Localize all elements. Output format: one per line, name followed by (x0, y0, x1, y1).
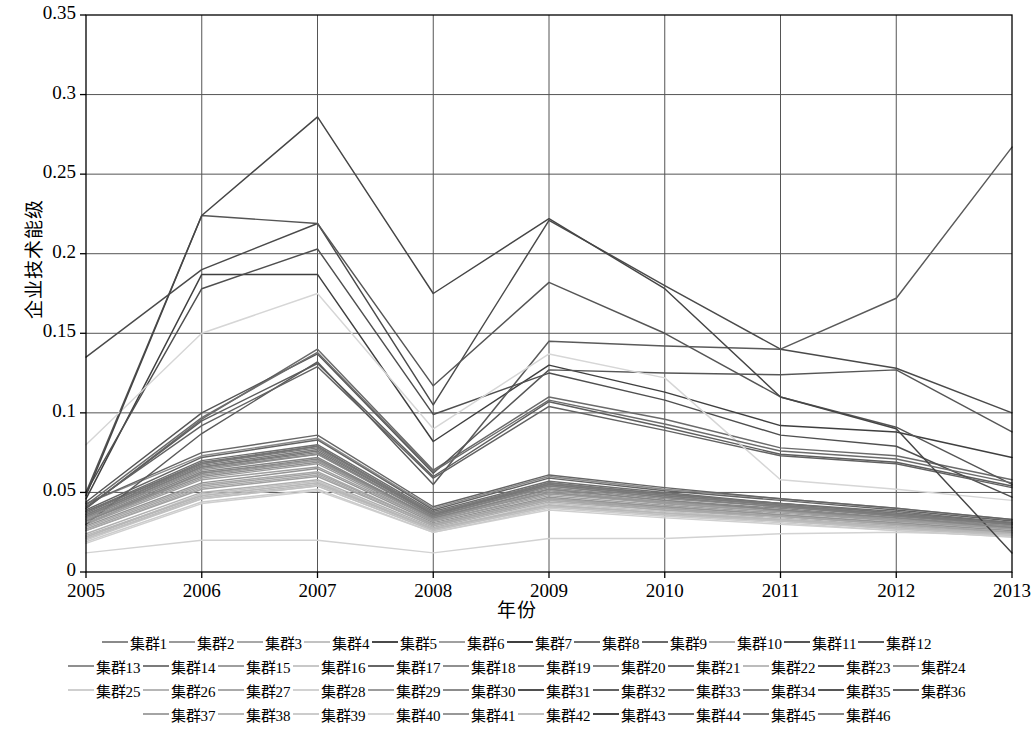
legend-label: 集群32 (621, 680, 666, 701)
legend-line-swatch-icon (143, 689, 169, 691)
legend-label: 集群37 (171, 704, 216, 725)
legend-label: 集群18 (471, 656, 516, 677)
legend-item[interactable]: 集群18 (443, 656, 516, 677)
gridlines (86, 15, 1012, 572)
legend-item[interactable]: 集群8 (574, 632, 640, 653)
legend-item[interactable]: 集群12 (858, 632, 931, 653)
legend-item[interactable]: 集群44 (668, 704, 741, 725)
legend-item[interactable]: 集群13 (68, 656, 141, 677)
legend-line-swatch-icon (518, 689, 544, 691)
legend-label: 集群13 (96, 656, 141, 677)
legend-label: 集群4 (332, 632, 370, 653)
legend-label: 集群29 (396, 680, 441, 701)
legend-item[interactable]: 集群21 (668, 656, 741, 677)
legend-line-swatch-icon (668, 665, 694, 667)
y-axis-tick-label: 0 (18, 559, 76, 581)
legend-item[interactable]: 集群9 (642, 632, 708, 653)
legend-line-swatch-icon (368, 665, 394, 667)
legend-label: 集群34 (771, 680, 816, 701)
legend-item[interactable]: 集群42 (518, 704, 591, 725)
legend-item[interactable]: 集群10 (709, 632, 782, 653)
legend-label: 集群15 (246, 656, 291, 677)
legend-label: 集群1 (130, 632, 168, 653)
legend-item[interactable]: 集群14 (143, 656, 216, 677)
legend-line-swatch-icon (668, 713, 694, 715)
legend-item[interactable]: 集群36 (893, 680, 966, 701)
legend-label: 集群12 (886, 632, 931, 653)
legend-item[interactable]: 集群29 (368, 680, 441, 701)
legend-line-swatch-icon (237, 641, 263, 643)
legend-item[interactable]: 集群43 (593, 704, 666, 725)
legend-row: 集群13集群14集群15集群16集群17集群18集群19集群20集群21集群22… (0, 654, 1033, 678)
legend-item[interactable]: 集群24 (893, 656, 966, 677)
legend-label: 集群24 (921, 656, 966, 677)
legend-line-swatch-icon (593, 665, 619, 667)
legend-item[interactable]: 集群41 (443, 704, 516, 725)
legend-row: 集群1集群2集群3集群4集群5集群6集群7集群8集群9集群10集群11集群12 (0, 630, 1033, 654)
legend-label: 集群14 (171, 656, 216, 677)
legend-item[interactable]: 集群35 (818, 680, 891, 701)
legend-item[interactable]: 集群17 (368, 656, 441, 677)
legend-label: 集群41 (471, 704, 516, 725)
legend-line-swatch-icon (668, 689, 694, 691)
legend-label: 集群6 (467, 632, 505, 653)
y-axis-tick-label: 0.3 (18, 82, 76, 104)
legend-line-swatch-icon (893, 665, 919, 667)
legend-item[interactable]: 集群2 (169, 632, 235, 653)
legend-item[interactable]: 集群28 (293, 680, 366, 701)
legend-row: 集群25集群26集群27集群28集群29集群30集群31集群32集群33集群34… (0, 678, 1033, 702)
legend-label: 集群28 (321, 680, 366, 701)
legend-line-swatch-icon (143, 665, 169, 667)
legend-item[interactable]: 集群6 (439, 632, 505, 653)
legend-item[interactable]: 集群46 (818, 704, 891, 725)
legend-label: 集群3 (265, 632, 303, 653)
legend-item[interactable]: 集群40 (368, 704, 441, 725)
legend-line-swatch-icon (507, 641, 533, 643)
legend-item[interactable]: 集群25 (68, 680, 141, 701)
legend-line-swatch-icon (743, 713, 769, 715)
legend-item[interactable]: 集群45 (743, 704, 816, 725)
legend-item[interactable]: 集群15 (218, 656, 291, 677)
legend-item[interactable]: 集群1 (102, 632, 168, 653)
y-axis-tick-label: 0.1 (18, 400, 76, 422)
legend-item[interactable]: 集群37 (143, 704, 216, 725)
legend-item[interactable]: 集群3 (237, 632, 303, 653)
legend-item[interactable]: 集群5 (372, 632, 438, 653)
y-axis-tick-label: 0.05 (18, 479, 76, 501)
legend-item[interactable]: 集群30 (443, 680, 516, 701)
legend-line-swatch-icon (368, 713, 394, 715)
legend-item[interactable]: 集群16 (293, 656, 366, 677)
legend-label: 集群35 (846, 680, 891, 701)
legend-label: 集群39 (321, 704, 366, 725)
legend-item[interactable]: 集群38 (218, 704, 291, 725)
legend-line-swatch-icon (743, 665, 769, 667)
legend-item[interactable]: 集群22 (743, 656, 816, 677)
legend-line-swatch-icon (443, 713, 469, 715)
legend-item[interactable]: 集群23 (818, 656, 891, 677)
legend-item[interactable]: 集群19 (518, 656, 591, 677)
legend-label: 集群45 (771, 704, 816, 725)
legend-line-swatch-icon (574, 641, 600, 643)
legend-item[interactable]: 集群39 (293, 704, 366, 725)
legend-item[interactable]: 集群27 (218, 680, 291, 701)
legend-item[interactable]: 集群32 (593, 680, 666, 701)
legend-item[interactable]: 集群7 (507, 632, 573, 653)
legend-item[interactable]: 集群4 (304, 632, 370, 653)
legend-item[interactable]: 集群20 (593, 656, 666, 677)
legend-item[interactable]: 集群11 (784, 632, 856, 653)
legend-label: 集群19 (546, 656, 591, 677)
legend-label: 集群2 (197, 632, 235, 653)
chart-page: 00.050.10.150.20.250.30.35 2005200620072… (0, 0, 1033, 731)
legend-item[interactable]: 集群26 (143, 680, 216, 701)
legend-line-swatch-icon (443, 665, 469, 667)
legend-item[interactable]: 集群31 (518, 680, 591, 701)
legend-item[interactable]: 集群33 (668, 680, 741, 701)
legend-line-swatch-icon (68, 665, 94, 667)
legend-line-swatch-icon (858, 641, 884, 643)
legend-label: 集群8 (602, 632, 640, 653)
chart-plot-container: 00.050.10.150.20.250.30.35 2005200620072… (0, 0, 1033, 625)
legend-label: 集群10 (737, 632, 782, 653)
legend-line-swatch-icon (518, 713, 544, 715)
legend-item[interactable]: 集群34 (743, 680, 816, 701)
legend-line-swatch-icon (169, 641, 195, 643)
